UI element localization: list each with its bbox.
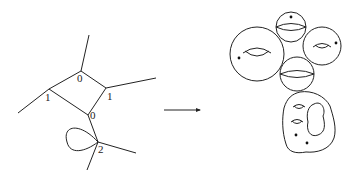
self-loop	[66, 128, 98, 151]
dual-graph: 0 1 1 0 2	[18, 35, 156, 170]
arrow-icon	[164, 108, 201, 112]
edge-left-bottom	[49, 89, 88, 115]
diagram-canvas: 0 1 1 0 2	[0, 0, 355, 179]
component-torus-right	[303, 27, 341, 65]
edge-top-right	[81, 71, 106, 88]
vertex-label-top: 0	[77, 72, 83, 84]
vertex-label-right: 1	[107, 90, 113, 102]
component-torus-left	[230, 27, 284, 81]
vertex-label-bottom: 0	[90, 109, 96, 121]
component-blob	[283, 92, 335, 153]
nodal-surface	[230, 12, 341, 153]
leg-top	[81, 35, 89, 71]
vertex-label-loop: 2	[98, 143, 104, 155]
vertex-label-left: 1	[45, 91, 51, 103]
component-sphere-middle	[280, 57, 314, 91]
leg-right	[106, 78, 156, 88]
leg-loop-right	[98, 142, 136, 153]
